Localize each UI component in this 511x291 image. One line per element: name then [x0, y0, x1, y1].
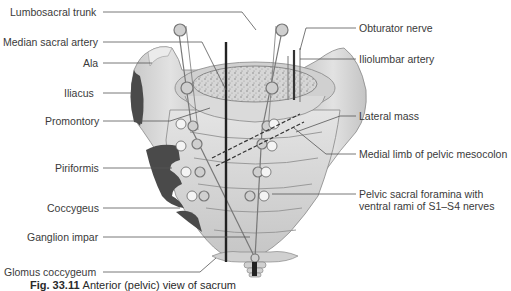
- label-piriformis: Piriformis: [55, 162, 99, 174]
- label-iliolumbar-artery: Iliolumbar artery: [359, 53, 434, 65]
- label-medial-limb-pelvic-mesocolon: Medial limb of pelvic mesocolon: [359, 148, 507, 160]
- label-iliacus: Iliacus: [64, 87, 94, 99]
- label-pelvic-sacral-foramina-2: ventral rami of S1–S4 nerves: [359, 200, 494, 212]
- sacral-body: [166, 110, 340, 256]
- ganglion-impar-node: [251, 254, 259, 262]
- label-pelvic-sacral-foramina-1: Pelvic sacral foramina with: [359, 188, 483, 200]
- caption-text: Anterior (pelvic) view of sacrum: [83, 279, 236, 291]
- label-obturator-nerve: Obturator nerve: [359, 22, 433, 34]
- caption-number: Fig. 33.11: [30, 279, 80, 291]
- label-median-sacral-artery: Median sacral artery: [3, 36, 98, 48]
- label-ala: Ala: [83, 57, 98, 69]
- label-lateral-mass: Lateral mass: [359, 110, 419, 122]
- label-ganglion-impar: Ganglion impar: [27, 231, 98, 243]
- figure-caption: Fig. 33.11 Anterior (pelvic) view of sac…: [30, 279, 236, 291]
- label-glomus-coccygeum: Glomus coccygeum: [4, 266, 96, 278]
- s1-body-surface: [193, 66, 317, 102]
- label-lumbosacral-trunk: Lumbosacral trunk: [10, 6, 96, 18]
- label-coccygeus: Coccygeus: [47, 202, 99, 214]
- label-promontory: Promontory: [45, 115, 99, 127]
